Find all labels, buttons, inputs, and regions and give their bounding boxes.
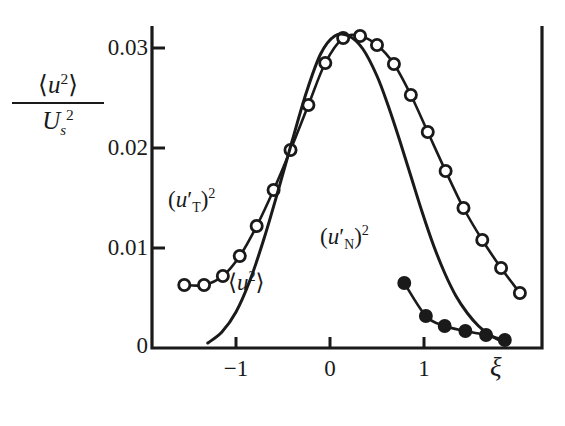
data-series [208,34,501,343]
series-line [208,34,501,343]
data-point-marker [477,234,488,245]
data-point-marker [422,126,433,137]
data-point-marker [234,250,245,261]
data-point-marker [440,165,451,176]
data-point-marker [251,220,262,231]
plot-area [0,0,565,426]
data-point-marker [514,287,525,298]
data-point-marker [420,310,432,322]
data-point-marker [495,262,506,273]
data-point-marker [458,202,469,213]
data-point-marker [438,320,450,332]
data-point-marker [179,279,190,290]
data-point-marker [459,325,471,337]
series-layer [179,30,526,346]
data-point-marker [398,277,410,289]
data-point-marker [217,270,228,281]
data-point-marker [405,89,416,100]
data-point-marker [320,57,331,68]
data-point-marker [371,39,382,50]
data-series [179,30,526,298]
data-point-marker [388,58,399,69]
data-point-marker [198,279,209,290]
axis-spines [152,26,542,348]
figure-container: ⟨u2⟩ Us2 0.03 0.02 0.01 0 −1 0 1 ξ (u′T)… [0,0,565,426]
